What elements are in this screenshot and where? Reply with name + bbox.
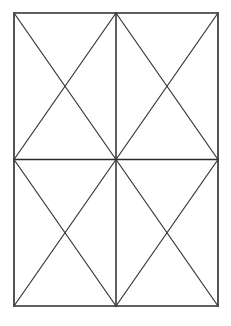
figure-canvas	[0, 0, 231, 326]
geometric-figure	[0, 0, 231, 326]
